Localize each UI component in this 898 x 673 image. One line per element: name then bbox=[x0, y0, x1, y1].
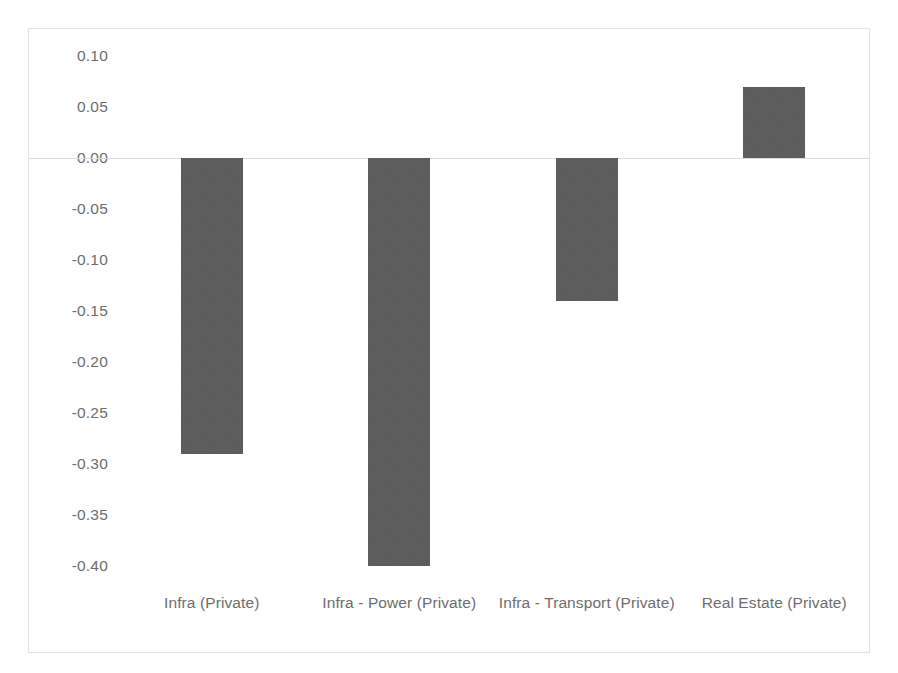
x-axis-tick-label: Infra - Power (Private) bbox=[306, 592, 494, 613]
bar bbox=[368, 158, 430, 566]
bar bbox=[743, 87, 805, 158]
bar bbox=[181, 158, 243, 454]
x-axis: Infra (Private)Infra - Power (Private)In… bbox=[118, 592, 868, 652]
bar-slot bbox=[681, 28, 869, 588]
bar-slot bbox=[306, 28, 494, 588]
x-axis-tick-label: Real Estate (Private) bbox=[681, 592, 869, 613]
x-axis-tick-label: Infra (Private) bbox=[118, 592, 306, 613]
x-axis-tick-label: Infra - Transport (Private) bbox=[493, 592, 681, 613]
bar bbox=[556, 158, 618, 301]
bar-slot bbox=[118, 28, 306, 588]
bar-slot bbox=[493, 28, 681, 588]
plot-area bbox=[118, 28, 868, 588]
bar-chart-figure: 0.100.050.00-0.05-0.10-0.15-0.20-0.25-0.… bbox=[0, 0, 898, 673]
